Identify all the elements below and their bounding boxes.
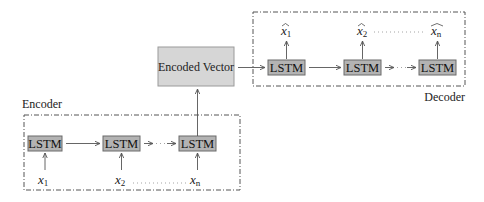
decoder-lstm-2: LSTM [344, 60, 381, 75]
decoder-lstm-2-label: LSTM [346, 61, 379, 75]
input-x2: x2 [114, 172, 125, 188]
decoder-lstm-1-label: LSTM [270, 61, 303, 75]
decoder-lstm-1: LSTM [268, 60, 305, 75]
seq2seq-diagram: Encoder LSTM LSTM LSTM x1 x2 xn [0, 0, 484, 202]
encoded-vector: Encoded Vector [158, 47, 234, 86]
input-x1: x1 [37, 172, 48, 188]
encoder-label: Encoder [22, 97, 62, 111]
encoder-lstm-1-label: LSTM [28, 137, 61, 151]
svg-text:x1: x1 [280, 23, 291, 39]
decoder-group: Decoder LSTM LSTM LSTM x1 [253, 12, 465, 104]
encoded-vector-label: Encoded Vector [158, 60, 234, 74]
decoder-label: Decoder [424, 90, 465, 104]
output-xhat-n: xn [430, 23, 443, 39]
encoder-lstm-1: LSTM [28, 136, 62, 151]
svg-text:x2: x2 [356, 23, 367, 39]
decoder-lstm-3-label: LSTM [421, 61, 454, 75]
decoder-lstm-3: LSTM [419, 60, 456, 75]
encoder-lstm-3: LSTM [179, 136, 216, 151]
encoder-lstm-2-label: LSTM [105, 137, 138, 151]
encoder-box [24, 115, 240, 190]
output-xhat-1: x1 [280, 23, 291, 39]
encoder-group: Encoder LSTM LSTM LSTM x1 x2 xn [22, 97, 240, 190]
encoder-lstm-2: LSTM [103, 136, 140, 151]
output-xhat-2: x2 [356, 23, 367, 39]
encoder-lstm-3-label: LSTM [181, 137, 214, 151]
svg-text:xn: xn [430, 23, 442, 39]
input-xn: xn [189, 172, 201, 188]
